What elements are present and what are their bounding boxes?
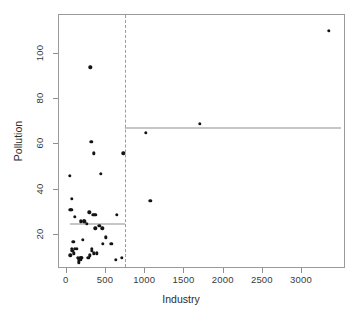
y-axis-tick	[53, 98, 58, 99]
x-axis-tick	[144, 268, 145, 273]
scatter-plot-figure: 05001000150020002500300020406080100 Indu…	[0, 0, 362, 320]
x-axis-tick	[223, 268, 224, 273]
x-axis-tick-label: 0	[63, 274, 68, 285]
y-axis-tick	[53, 189, 58, 190]
plot-panel	[58, 14, 345, 268]
data-point	[95, 251, 98, 254]
x-axis-tick	[66, 268, 67, 273]
data-point	[70, 208, 73, 211]
y-axis-tick	[53, 53, 58, 54]
data-point	[99, 172, 102, 175]
data-point	[115, 213, 118, 216]
x-axis-tick-label: 3000	[290, 274, 312, 285]
split-line	[125, 15, 126, 267]
data-point	[101, 242, 104, 245]
x-axis-tick	[262, 268, 263, 273]
x-axis-title: Industry	[0, 293, 362, 305]
y-axis-tick-label: 40	[34, 178, 45, 200]
y-axis-title: Pollution	[12, 101, 24, 181]
data-point	[104, 236, 107, 239]
x-axis-tick	[183, 268, 184, 273]
x-axis-tick	[301, 268, 302, 273]
y-axis-tick-label: 80	[34, 87, 45, 109]
data-point	[69, 254, 72, 257]
data-point	[72, 251, 75, 254]
data-point	[73, 215, 76, 218]
data-point	[110, 242, 113, 245]
data-point	[94, 213, 97, 216]
data-point	[88, 254, 91, 257]
y-axis-tick	[53, 234, 58, 235]
x-axis-tick-label: 2000	[212, 274, 234, 285]
data-point	[88, 211, 91, 214]
data-point	[120, 256, 123, 259]
x-axis-tick-label: 1500	[172, 274, 194, 285]
data-point	[80, 256, 83, 259]
data-point	[71, 240, 74, 243]
data-point	[90, 247, 93, 250]
y-axis-tick-label: 100	[34, 42, 45, 64]
x-axis-tick-label: 500	[97, 274, 113, 285]
data-point	[198, 122, 201, 125]
data-point-layer	[59, 15, 344, 267]
data-point	[93, 226, 96, 229]
y-axis-tick-label: 20	[34, 223, 45, 245]
data-point	[92, 152, 95, 155]
x-axis-tick-label: 2500	[251, 274, 273, 285]
data-point	[85, 222, 88, 225]
data-point	[89, 65, 92, 68]
data-point	[144, 131, 147, 134]
y-axis-tick	[53, 143, 58, 144]
x-axis-tick-label: 1000	[133, 274, 155, 285]
x-axis-tick	[105, 268, 106, 273]
data-point	[327, 29, 330, 32]
right-group-mean	[125, 127, 341, 128]
data-point	[149, 199, 152, 202]
data-point	[68, 174, 71, 177]
data-point	[70, 197, 73, 200]
y-axis-tick-label: 60	[34, 132, 45, 154]
data-point	[90, 140, 93, 143]
data-point	[75, 247, 78, 250]
data-point	[114, 258, 117, 261]
data-point	[101, 226, 104, 229]
data-point	[81, 238, 84, 241]
